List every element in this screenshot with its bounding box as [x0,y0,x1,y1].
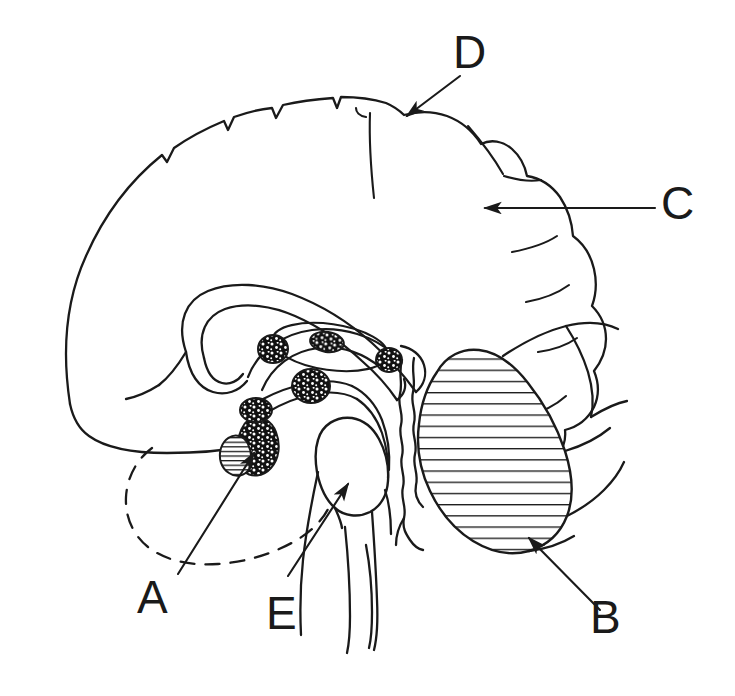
label-e: E [266,590,297,636]
label-d: D [453,29,486,75]
brain-diagram-figure: A B C D E [0,0,735,696]
nucleus-4 [292,369,330,403]
nucleus-2 [309,330,345,355]
label-c: C [661,180,694,226]
frontal-lobe-base [70,352,248,453]
nucleus-5 [240,398,272,422]
leader-arrow-e [288,484,348,576]
leader-arrow-a [178,453,254,574]
cerebellum [418,350,572,553]
label-b: B [590,594,621,640]
nucleus-1 [258,335,288,363]
central-sulcus [356,108,374,198]
brain-illustration [0,0,735,696]
nucleus-3 [376,348,402,372]
leader-arrows [178,76,655,610]
leader-arrow-d [407,76,460,116]
medulla [300,472,391,653]
pituitary-gland [220,417,279,476]
label-a: A [137,574,168,620]
